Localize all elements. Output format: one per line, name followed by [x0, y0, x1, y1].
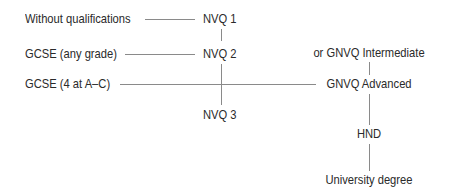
connector-nvq1-to-nvq2	[221, 29, 222, 41]
label-hnd: HND	[357, 126, 381, 142]
label-university-degree: University degree	[326, 172, 413, 188]
connector-hnd-to-degree	[369, 144, 370, 171]
label-gcse-4-a-c: GCSE (4 at A–C)	[25, 76, 110, 92]
label-gcse-any-grade: GCSE (any grade)	[25, 46, 117, 62]
label-nvq-3: NVQ 3	[203, 107, 237, 123]
label-nvq-2: NVQ 2	[203, 46, 237, 62]
connector-gcse-4ac-to-gnvq-advanced	[120, 84, 316, 85]
label-gnvq-intermediate: or GNVQ Intermediate	[313, 45, 424, 61]
label-gnvq-advanced: GNVQ Advanced	[326, 76, 411, 92]
connector-nvq2-to-nvq3	[221, 64, 222, 105]
qualification-pathway-diagram: Without qualifications GCSE (any grade) …	[0, 0, 451, 194]
connector-gcse-any-to-nvq2	[125, 54, 195, 55]
connector-gnvq-int-to-adv	[369, 62, 370, 75]
label-without-qualifications: Without qualifications	[25, 11, 131, 27]
connector-without-to-nvq1	[145, 19, 195, 20]
label-nvq-1: NVQ 1	[203, 11, 237, 27]
connector-gnvq-adv-to-hnd	[369, 94, 370, 125]
